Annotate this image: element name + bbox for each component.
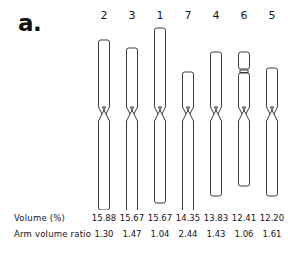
arm-volume-ratio-value: 1.30 xyxy=(90,229,118,239)
chromosome-7: 7 xyxy=(174,4,202,210)
volume-percent-value: 15.88 xyxy=(90,213,118,223)
arm-volume-ratio-value: 1.06 xyxy=(230,229,258,239)
chromosome-6: 6 xyxy=(230,4,258,210)
chromosome-label: 5 xyxy=(258,10,286,21)
chromosome-ideogram xyxy=(90,24,118,210)
volume-percent-value: 15.67 xyxy=(118,213,146,223)
arm-volume-ratio-value: 1.47 xyxy=(118,229,146,239)
chromosome-label: 2 xyxy=(90,10,118,21)
chromosome-ideogram xyxy=(146,24,174,210)
chromosome-label: 1 xyxy=(146,10,174,21)
volume-percent-value: 12.20 xyxy=(258,213,286,223)
arm-volume-ratio-value: 1.04 xyxy=(146,229,174,239)
figure-panel: a. 2317465 Volume (%) Arm volume ratio 1… xyxy=(0,0,288,255)
chromosome-ideogram xyxy=(258,24,286,210)
chromosome-1: 1 xyxy=(146,4,174,210)
chromosome-label: 6 xyxy=(230,10,258,21)
chromosome-3: 3 xyxy=(118,4,146,210)
volume-percent-value: 12.41 xyxy=(230,213,258,223)
panel-label: a. xyxy=(18,12,41,35)
arm-volume-ratio-value: 1.61 xyxy=(258,229,286,239)
chromosome-5: 5 xyxy=(258,4,286,210)
arm-volume-ratio-value: 2.44 xyxy=(174,229,202,239)
volume-percent-value: 13.83 xyxy=(202,213,230,223)
arm-volume-ratio-value: 1.43 xyxy=(202,229,230,239)
row-label-volume: Volume (%) xyxy=(14,213,65,223)
chromosome-4: 4 xyxy=(202,4,230,210)
chromosome-label: 3 xyxy=(118,10,146,21)
chromosome-ideogram xyxy=(202,24,230,210)
chromosome-label: 7 xyxy=(174,10,202,21)
chromosome-2: 2 xyxy=(90,4,118,210)
karyogram: 2317465 xyxy=(90,4,286,210)
chromosome-ideogram xyxy=(230,24,258,210)
chromosome-ideogram xyxy=(174,24,202,210)
row-label-arm-volume-ratio: Arm volume ratio xyxy=(14,229,91,239)
volume-percent-value: 14.35 xyxy=(174,213,202,223)
volume-percent-value: 15.67 xyxy=(146,213,174,223)
measurement-table: Volume (%) Arm volume ratio 15.881.3015.… xyxy=(0,208,288,252)
chromosome-ideogram xyxy=(118,24,146,210)
chromosome-label: 4 xyxy=(202,10,230,21)
